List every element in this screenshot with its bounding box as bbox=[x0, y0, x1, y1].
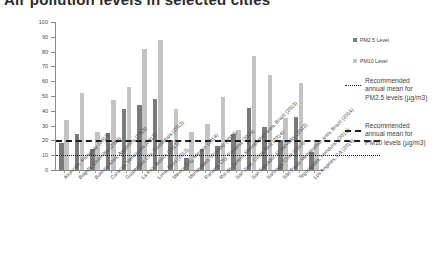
bar-pm10 bbox=[64, 120, 69, 170]
x-axis-tick bbox=[314, 170, 315, 173]
page-title: Air pollution levels in selected cities bbox=[4, 0, 270, 8]
x-axis-tick bbox=[158, 170, 159, 173]
chart-title-strip: Air pollution levels in selected cities bbox=[0, 0, 433, 9]
x-axis-tick bbox=[95, 170, 96, 173]
legend-label: PM2.5 Level bbox=[360, 37, 389, 43]
x-axis-tick bbox=[267, 170, 268, 173]
dashed-line-icon bbox=[345, 130, 361, 132]
x-axis-tick bbox=[252, 170, 253, 173]
x-axis-tick bbox=[79, 170, 80, 173]
x-axis-tick bbox=[142, 170, 143, 173]
legend-reference-pm25[interactable]: Recommended annual mean for PM2.5 levels… bbox=[345, 77, 429, 102]
x-axis-tick bbox=[299, 170, 300, 173]
x-axis-tick bbox=[189, 170, 190, 173]
x-axis-tick bbox=[173, 170, 174, 173]
y-axis-tick-label: 0 bbox=[22, 167, 48, 173]
legend-label: PM10 Level bbox=[360, 58, 387, 64]
legend-reference-label: Recommended annual mean for PM10 levels … bbox=[365, 122, 429, 147]
x-axis-tick bbox=[236, 170, 237, 173]
x-axis-tick bbox=[283, 170, 284, 173]
y-axis-tick bbox=[51, 170, 56, 171]
legend-item-pm10[interactable]: PM10 Level bbox=[353, 58, 387, 64]
legend-reference-label: Recommended annual mean for PM2.5 levels… bbox=[365, 77, 429, 102]
x-axis-tick bbox=[205, 170, 206, 173]
pollution-bar-chart: 0102030405060708090100 Asunción, Paragua… bbox=[0, 9, 433, 272]
x-axis-tick bbox=[126, 170, 127, 173]
x-axis-tick bbox=[64, 170, 65, 173]
x-axis-tick bbox=[220, 170, 221, 173]
legend-item-pm25[interactable]: PM2.5 Level bbox=[353, 37, 389, 43]
legend-reference-pm10[interactable]: Recommended annual mean for PM10 levels … bbox=[345, 122, 429, 147]
x-axis-tick bbox=[111, 170, 112, 173]
y-axis-tick-label: 20 bbox=[22, 137, 48, 143]
dotted-line-icon bbox=[345, 85, 361, 86]
legend-swatch-icon bbox=[353, 38, 357, 42]
bar-pm25 bbox=[59, 143, 64, 170]
y-axis-tick-label: 10 bbox=[22, 152, 48, 158]
legend-swatch-icon bbox=[353, 59, 357, 63]
chart-legend: PM2.5 LevelPM10 LevelRecommended annual … bbox=[345, 9, 433, 189]
y-axis-tick-label: 30 bbox=[22, 123, 48, 129]
